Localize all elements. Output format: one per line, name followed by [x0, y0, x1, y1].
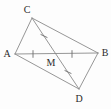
- tick-CM: [41, 35, 47, 38]
- vertex-label-c: C: [24, 5, 31, 15]
- segment-ab: [15, 53, 98, 54]
- segment-db: [79, 53, 98, 89]
- figure-canvas: [0, 0, 111, 109]
- geometry-figure: A B C D M: [0, 0, 111, 109]
- vertex-label-d: D: [75, 94, 82, 104]
- vertex-label-b: B: [102, 48, 109, 58]
- vertex-label-a: A: [3, 49, 10, 59]
- vertex-label-m: M: [47, 58, 56, 68]
- segment-ac: [15, 18, 32, 54]
